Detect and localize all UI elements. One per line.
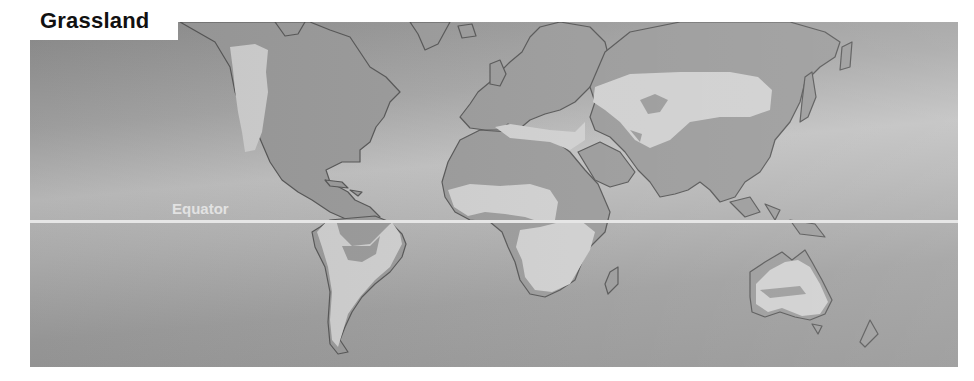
world-map: [30, 22, 958, 367]
world-map-svg: [30, 22, 958, 367]
continent-europe: [460, 22, 610, 130]
map-title: Grassland: [40, 8, 149, 34]
equator-line: [30, 220, 958, 223]
equator-label: Equator: [172, 200, 229, 217]
continent-north-america: [180, 22, 400, 222]
